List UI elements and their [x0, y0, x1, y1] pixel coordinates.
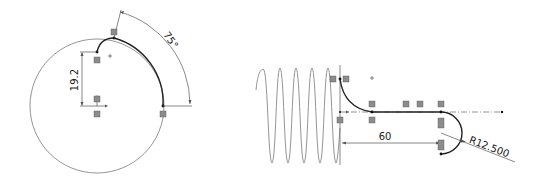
dimension-label: 60 — [379, 131, 392, 142]
endpoint[interactable] — [440, 153, 443, 156]
coincident-relation-icon[interactable] — [94, 111, 100, 117]
center-mark — [370, 76, 374, 80]
endpoint[interactable] — [440, 111, 443, 114]
tangent-relation-icon[interactable] — [438, 118, 444, 128]
sine-wave[interactable] — [256, 68, 340, 163]
horizontal-relation-icon[interactable] — [417, 101, 423, 107]
endpoint[interactable] — [339, 78, 342, 81]
tangent-relation-icon[interactable] — [438, 140, 444, 150]
vertical-relation-icon[interactable] — [94, 57, 100, 63]
dimension-label: 75° — [161, 30, 180, 51]
coincident-relation-icon[interactable] — [337, 117, 343, 123]
coincident-relation-icon[interactable] — [369, 117, 375, 123]
left-sketch: 19.2 75° — [30, 10, 192, 173]
vertical-relation-icon[interactable] — [94, 96, 100, 102]
coincident-relation-icon[interactable] — [330, 76, 336, 82]
coincident-relation-icon[interactable] — [160, 111, 166, 117]
dimension-label: 19.2 — [69, 69, 80, 91]
dimension-19-2[interactable]: 19.2 — [69, 52, 97, 106]
main-arc[interactable] — [114, 38, 163, 106]
arc-center-mark — [108, 54, 112, 58]
coincident-relation-icon[interactable] — [111, 29, 117, 35]
sketch-canvas: 19.2 75° — [0, 0, 537, 187]
dimension-60[interactable]: 60 — [342, 131, 440, 145]
dimension-r12-500[interactable]: R12.500 — [441, 133, 515, 162]
horizontal-relation-icon[interactable] — [403, 101, 409, 107]
coincident-relation-icon[interactable] — [369, 101, 375, 107]
small-arc[interactable] — [97, 38, 114, 52]
fillet-arc[interactable] — [340, 79, 372, 112]
dimension-75-deg[interactable]: 75° — [114, 10, 192, 106]
endpoint[interactable] — [371, 111, 374, 114]
origin-point[interactable] — [339, 111, 341, 113]
centerline-endpoint[interactable] — [501, 111, 503, 113]
right-sketch: 60 R12.500 — [256, 65, 515, 165]
dimension-label: R12.500 — [468, 134, 511, 159]
coincident-relation-icon[interactable] — [438, 101, 444, 107]
coincident-relation-icon[interactable] — [343, 76, 349, 82]
origin-arrow-icon — [346, 111, 349, 114]
